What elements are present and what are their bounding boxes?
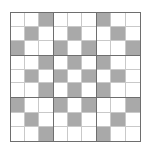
grid-cell-r2c5: [68, 27, 82, 41]
grid-cell-r1c7: [97, 13, 111, 27]
grid-cell-r9c8: [111, 127, 125, 141]
grid-block-r3c3: [97, 98, 140, 141]
grid-cell-r3c3: [39, 41, 53, 55]
grid-cell-r4c5: [68, 56, 82, 70]
grid-cell-r6c1: [11, 83, 25, 97]
grid-block-r3c1: [11, 98, 54, 141]
grid-cell-r6c8: [111, 83, 125, 97]
grid-block-r1c1: [11, 13, 54, 56]
grid-cell-r6c2: [25, 83, 39, 97]
grid-cell-r1c9: [126, 13, 140, 27]
grid-cell-r8c2: [25, 113, 39, 127]
grid-cell-r7c5: [68, 98, 82, 112]
grid-cell-r1c8: [111, 13, 125, 27]
grid-block-r2c2: [54, 56, 97, 99]
grid-cell-r9c5: [68, 127, 82, 141]
grid-cell-r2c1: [11, 27, 25, 41]
grid-cell-r5c8: [111, 70, 125, 84]
grid-cell-r4c6: [82, 56, 96, 70]
grid-cell-r3c9: [126, 41, 140, 55]
grid-cell-r3c7: [97, 41, 111, 55]
grid-cell-r2c2: [25, 27, 39, 41]
grid-cell-r2c7: [97, 27, 111, 41]
grid-cell-r6c3: [39, 83, 53, 97]
grid-block-r2c1: [11, 56, 54, 99]
grid-cell-r9c4: [54, 127, 68, 141]
grid-cell-r5c2: [25, 70, 39, 84]
grid-cell-r8c4: [54, 113, 68, 127]
grid-cell-r4c2: [25, 56, 39, 70]
grid-cell-r2c4: [54, 27, 68, 41]
grid-block-r1c3: [97, 13, 140, 56]
grid-cell-r7c6: [82, 98, 96, 112]
grid-cell-r9c7: [97, 127, 111, 141]
grid-cell-r3c5: [68, 41, 82, 55]
grid-cell-r7c9: [126, 98, 140, 112]
grid-cell-r9c6: [82, 127, 96, 141]
grid-cell-r5c4: [54, 70, 68, 84]
grid-cell-r9c1: [11, 127, 25, 141]
grid-cell-r1c1: [11, 13, 25, 27]
grid-cell-r2c8: [111, 27, 125, 41]
grid-cell-r6c4: [54, 83, 68, 97]
grid-cell-r8c1: [11, 113, 25, 127]
grid-cell-r8c9: [126, 113, 140, 127]
grid-cell-r3c4: [54, 41, 68, 55]
grid-block-r2c3: [97, 56, 140, 99]
grid-cell-r5c3: [39, 70, 53, 84]
grid-cell-r5c1: [11, 70, 25, 84]
grid-cell-r1c3: [39, 13, 53, 27]
grid-cell-r3c8: [111, 41, 125, 55]
grid-cell-r2c3: [39, 27, 53, 41]
grid-cell-r4c4: [54, 56, 68, 70]
grid-cell-r2c6: [82, 27, 96, 41]
grid-cell-r4c9: [126, 56, 140, 70]
grid-cell-r8c3: [39, 113, 53, 127]
grid-cell-r4c1: [11, 56, 25, 70]
grid-cell-r1c4: [54, 13, 68, 27]
grid-cell-r2c9: [126, 27, 140, 41]
grid-cell-r4c3: [39, 56, 53, 70]
grid-cell-r7c8: [111, 98, 125, 112]
grid-cell-r7c4: [54, 98, 68, 112]
grid-cell-r3c1: [11, 41, 25, 55]
grid-cell-r5c6: [82, 70, 96, 84]
grid-cell-r9c2: [25, 127, 39, 141]
grid-cell-r9c3: [39, 127, 53, 141]
grid-cell-r9c9: [126, 127, 140, 141]
nine-by-nine-grid: [10, 12, 141, 142]
grid-cell-r1c5: [68, 13, 82, 27]
grid-cell-r8c6: [82, 113, 96, 127]
grid-block-r1c2: [54, 13, 97, 56]
grid-cell-r4c7: [97, 56, 111, 70]
grid-cell-r5c7: [97, 70, 111, 84]
grid-cell-r7c2: [25, 98, 39, 112]
grid-cell-r1c6: [82, 13, 96, 27]
grid-cell-r7c3: [39, 98, 53, 112]
grid-cell-r7c7: [97, 98, 111, 112]
grid-cell-r4c8: [111, 56, 125, 70]
grid-cell-r7c1: [11, 98, 25, 112]
grid-cell-r8c8: [111, 113, 125, 127]
grid-cell-r8c7: [97, 113, 111, 127]
figure-canvas: [0, 0, 151, 154]
grid-cell-r3c6: [82, 41, 96, 55]
grid-cell-r8c5: [68, 113, 82, 127]
grid-cell-r6c9: [126, 83, 140, 97]
grid-cell-r5c9: [126, 70, 140, 84]
grid-cell-r1c2: [25, 13, 39, 27]
grid-cell-r5c5: [68, 70, 82, 84]
grid-cell-r6c7: [97, 83, 111, 97]
grid-cell-r6c6: [82, 83, 96, 97]
grid-block-r3c2: [54, 98, 97, 141]
grid-cell-r6c5: [68, 83, 82, 97]
grid-cell-r3c2: [25, 41, 39, 55]
